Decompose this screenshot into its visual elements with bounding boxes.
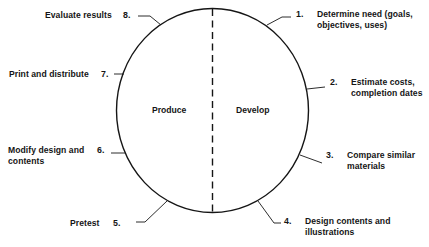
cycle-diagram-graphic [0,0,429,247]
step-8-label: Evaluate results [45,10,112,21]
step-3-label: Compare similar materials [347,150,415,171]
step-1-label-line-2: objectives, uses) [317,20,413,31]
step-4-label-line-2: illustrations [305,227,390,238]
step-8-number: 8. [123,10,130,21]
step-4-label-line-1: Design contents and [305,216,390,227]
leader-line-step-3 [300,155,322,163]
leader-line-step-8 [150,16,161,25]
step-4-label: Design contents and illustrations [305,216,390,237]
step-2-label-line-2: completion dates [351,88,422,99]
step-7-number: 7. [101,69,108,80]
step-3-number: 3. [326,150,333,161]
leader-line-step-1 [267,17,282,25]
step-7-label: Print and distribute [9,69,89,80]
step-2-label-line-1: Estimate costs, [351,77,422,88]
step-6-label: Modify design and contents [8,145,84,166]
leader-line-step-5 [145,201,167,222]
step-5-number: 5. [113,218,120,229]
leader-line-step-4 [258,201,274,223]
step-6-label-line-1: Modify design and [8,145,84,156]
step-4-number: 4. [284,216,291,227]
step-1-label-line-1: Determine need (goals, [317,9,413,20]
cycle-diagram: Produce Develop 1. Determine need (goals… [0,0,429,247]
step-2-label: Estimate costs, completion dates [351,77,422,98]
half-label-develop: Develop [236,105,269,115]
half-label-produce: Produce [152,105,186,115]
step-3-label-line-2: materials [347,161,415,172]
step-2-number: 2. [330,77,337,88]
step-1-label: Determine need (goals, objectives, uses) [317,9,413,30]
step-3-label-line-1: Compare similar [347,150,415,161]
step-1-number: 1. [296,9,303,20]
step-6-number: 6. [97,145,104,156]
step-6-label-line-2: contents [8,156,84,167]
step-5-label: Pretest [70,218,100,229]
leader-line-step-2 [307,87,325,89]
